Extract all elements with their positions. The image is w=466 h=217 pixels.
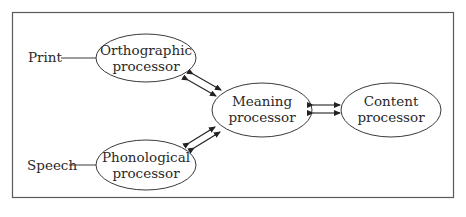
meaning-content-arrows — [313, 105, 340, 113]
orthographic-label-line2: processor — [112, 58, 180, 74]
meaning-processor-node: Meaning processor — [212, 83, 312, 137]
orthographic-meaning-arrows — [188, 74, 221, 96]
meaning-label-line2: processor — [228, 109, 296, 125]
double-arrow-icon — [189, 127, 215, 143]
meaning-label-line1: Meaning — [232, 93, 293, 109]
double-arrow-icon — [188, 80, 216, 96]
orthographic-processor-node: Orthographic processor — [96, 34, 196, 82]
print-label: Print — [28, 49, 63, 65]
double-arrow-icon — [194, 132, 220, 148]
content-label-line2: processor — [357, 109, 425, 125]
content-label-line1: Content — [364, 93, 419, 109]
phonological-meaning-arrows — [189, 127, 220, 148]
phonological-processor-node: Phonological processor — [96, 140, 196, 190]
phonological-label-line1: Phonological — [102, 149, 190, 165]
phonological-label-line2: processor — [112, 165, 180, 181]
orthographic-label-line1: Orthographic — [100, 42, 192, 58]
four-processor-diagram: Print Speech Orthographic processor Phon… — [0, 0, 466, 217]
content-processor-node: Content processor — [341, 83, 441, 137]
double-arrow-icon — [193, 74, 221, 90]
